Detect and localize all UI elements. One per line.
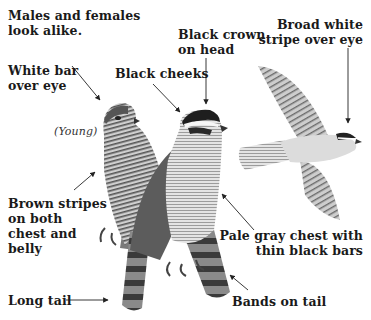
label-line: belly (8, 241, 107, 256)
label-line: look alike. (8, 23, 140, 38)
flying-hawk (239, 66, 362, 220)
label-broad-stripe: Broad white stripe over eye (259, 17, 363, 47)
label-pale-chest: Pale gray chest with thin black bars (220, 228, 363, 258)
label-young: (Young) (54, 124, 97, 139)
label-line: stripe over eye (259, 32, 363, 47)
label-line: on both (8, 211, 107, 226)
label-note: Males and females look alike. (8, 8, 140, 38)
label-bands-tail: Bands on tail (232, 294, 326, 309)
label-line: Black crown (178, 27, 266, 42)
label-brown-stripes: Brown stripes on both chest and belly (8, 196, 107, 256)
label-white-bar: White bar over eye (8, 63, 78, 93)
label-line: Black cheeks (115, 66, 209, 81)
label-line: chest and (8, 226, 107, 241)
label-black-cheeks: Black cheeks (115, 66, 209, 81)
label-line: Pale gray chest with (220, 228, 363, 243)
label-line: over eye (8, 78, 78, 93)
label-line: thin black bars (220, 243, 363, 258)
label-line: Brown stripes (8, 196, 107, 211)
label-line: White bar (8, 63, 78, 78)
label-line: on head (178, 42, 266, 57)
label-line: Males and females (8, 8, 140, 23)
label-line: Broad white (259, 17, 363, 32)
label-long-tail: Long tail (8, 293, 72, 308)
label-black-crown: Black crown on head (178, 27, 266, 57)
